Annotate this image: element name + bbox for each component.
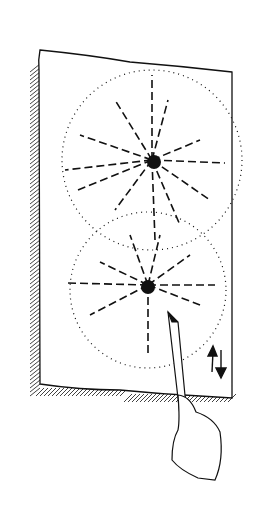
hand <box>172 395 221 480</box>
paper-sheet <box>39 50 232 398</box>
illustration <box>0 0 253 506</box>
